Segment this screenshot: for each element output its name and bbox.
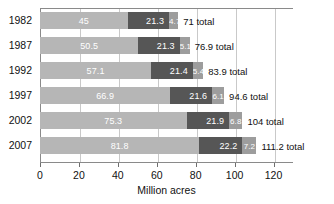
bar-value-label: 75.3 — [40, 116, 187, 126]
stacked-bar-chart: 198219871992199720022007 4521.34.771 tot… — [0, 0, 334, 204]
y-axis-year-labels: 198219871992199720022007 — [0, 8, 36, 163]
bar-segment-1: 66.9 — [40, 87, 170, 104]
bar-segment-2: 21.6 — [170, 87, 212, 104]
bar-segment-1: 81.8 — [40, 137, 199, 154]
bar-total-label: 76.9 total — [195, 40, 234, 51]
y-axis-label-1992: 1992 — [9, 62, 32, 79]
bar-value-label: 6.8 — [229, 116, 242, 125]
bar-segment-3: 5.1 — [180, 37, 190, 54]
x-axis-title: Million acres — [40, 184, 293, 196]
bar-value-label: 21.4 — [170, 66, 188, 76]
bar-value-label: 45 — [40, 16, 128, 26]
bar-total-label: 94.6 total — [229, 90, 268, 101]
bar-value-label: 21.3 — [146, 16, 164, 26]
bar-value-label: 50.5 — [40, 41, 138, 51]
bar-segment-3: 6.8 — [229, 112, 242, 129]
x-axis-tick-label: 60 — [151, 169, 163, 181]
bar-value-label: 21.3 — [157, 41, 175, 51]
bar-total-label: 104 total — [247, 115, 283, 126]
bar-segment-1: 75.3 — [40, 112, 187, 129]
x-axis-tick — [157, 163, 158, 167]
bar-total-label: 111.2 total — [261, 140, 304, 151]
x-axis-tick — [118, 163, 119, 167]
bar-value-label: 4.7 — [169, 16, 178, 25]
x-axis-tick-label: 20 — [73, 169, 85, 181]
bar-total-label: 83.9 total — [208, 65, 247, 76]
x-axis-tick — [274, 163, 275, 167]
bar-segment-3: 6.1 — [212, 87, 224, 104]
x-axis-tick-label: 40 — [112, 169, 124, 181]
x-axis-tick-label: 120 — [265, 169, 283, 181]
bar-segment-2: 21.3 — [128, 12, 169, 29]
bar-value-label: 5.4 — [193, 66, 204, 75]
x-axis: 020406080100120 — [40, 163, 293, 164]
bar-value-label: 5.1 — [180, 41, 190, 50]
bar-segment-2: 21.9 — [187, 112, 230, 129]
x-axis-tick-label: 100 — [226, 169, 244, 181]
bar-segment-1: 57.1 — [40, 62, 151, 79]
bar-value-label: 6.1 — [212, 91, 224, 100]
bar-value-label: 21.6 — [189, 91, 207, 101]
bar-value-label: 22.2 — [219, 141, 237, 151]
bar-segment-2: 22.2 — [199, 137, 242, 154]
bar-segment-3: 5.4 — [193, 62, 204, 79]
bar-segment-3: 4.7 — [169, 12, 178, 29]
x-axis-tick-label: 0 — [37, 169, 43, 181]
x-axis-tick — [40, 163, 41, 167]
y-axis-label-1987: 1987 — [9, 37, 32, 54]
y-axis-label-1982: 1982 — [9, 12, 32, 29]
bar-segment-2: 21.3 — [138, 37, 179, 54]
bar-value-label: 57.1 — [40, 66, 151, 76]
bar-value-label: 66.9 — [40, 91, 170, 101]
bars-layer: 4521.34.771 total50.521.35.176.9 total57… — [40, 8, 334, 163]
bar-value-label: 7.2 — [242, 141, 256, 150]
y-axis-label-2002: 2002 — [9, 112, 32, 129]
x-axis-tick-label: 80 — [190, 169, 202, 181]
bar-segment-1: 45 — [40, 12, 128, 29]
bar-total-label: 71 total — [183, 15, 214, 26]
x-axis-tick — [235, 163, 236, 167]
bar-segment-3: 7.2 — [242, 137, 256, 154]
y-axis-label-1997: 1997 — [9, 87, 32, 104]
x-axis-tick — [79, 163, 80, 167]
bar-segment-2: 21.4 — [151, 62, 193, 79]
bar-value-label: 81.8 — [40, 141, 199, 151]
y-axis-label-2007: 2007 — [9, 137, 32, 154]
bar-value-label: 21.9 — [206, 116, 224, 126]
x-axis-tick — [196, 163, 197, 167]
bar-segment-1: 50.5 — [40, 37, 138, 54]
